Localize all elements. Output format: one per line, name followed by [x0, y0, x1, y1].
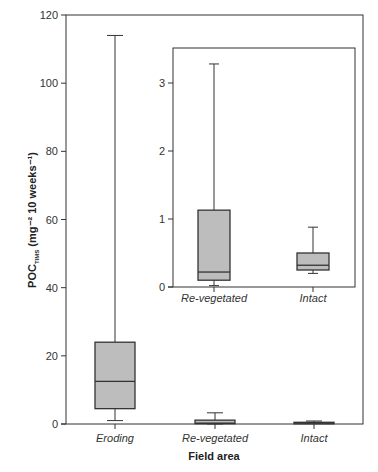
x-axis-title: Field area — [188, 450, 240, 462]
y-tick-label: 0 — [159, 281, 165, 293]
x-category-label: Re-vegetated — [181, 292, 248, 304]
y-axis-title: POCTIMS (mg⁻² 10 weeks⁻¹) — [26, 152, 40, 288]
y-tick-label: 3 — [159, 77, 165, 89]
y-tick-label: 20 — [46, 350, 58, 362]
iqr-box — [198, 210, 230, 280]
x-category-label: Re-vegetated — [182, 432, 249, 444]
x-category-label: Eroding — [96, 432, 135, 444]
y-tick-label: 1 — [159, 213, 165, 225]
y-tick-label: 100 — [40, 77, 58, 89]
y-tick-label: 2 — [159, 145, 165, 157]
inset-plot: 0123Re-vegetatedIntact — [159, 48, 355, 304]
box-plot-chart: 020406080100120ErodingRe-vegetatedIntact… — [0, 0, 378, 472]
x-category-label: Intact — [300, 292, 328, 304]
iqr-box — [95, 342, 135, 408]
y-tick-label: 0 — [52, 418, 58, 430]
y-tick-label: 40 — [46, 282, 58, 294]
iqr-box — [297, 253, 329, 270]
box-eroding: Eroding — [95, 35, 135, 444]
y-tick-label: 60 — [46, 214, 58, 226]
y-tick-label: 120 — [40, 9, 58, 21]
box-re-vegetated: Re-vegetated — [182, 413, 249, 444]
svg-text:POCTIMS (mg⁻² 10 weeks⁻¹): POCTIMS (mg⁻² 10 weeks⁻¹) — [26, 152, 40, 288]
y-tick-label: 80 — [46, 145, 58, 157]
x-category-label: Intact — [301, 432, 329, 444]
